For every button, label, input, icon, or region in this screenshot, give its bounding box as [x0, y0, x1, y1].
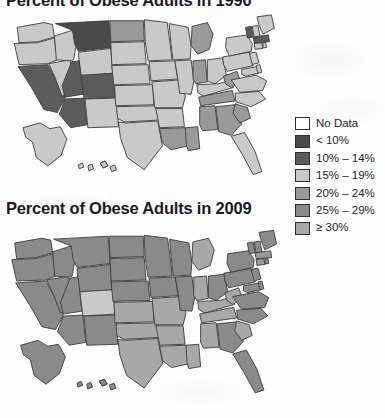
state-nh	[254, 241, 262, 253]
state-mi	[191, 23, 213, 55]
map-legend: No Data< 10%10% – 14%15% – 19%20% – 24%2…	[295, 115, 383, 237]
legend-row: 10% – 14%	[295, 150, 383, 167]
island-1	[88, 164, 94, 171]
state-nh	[252, 25, 260, 36]
island-1	[87, 382, 93, 389]
state-ia	[149, 61, 178, 81]
state-in	[193, 60, 207, 84]
state-ak	[21, 340, 66, 384]
state-wi	[169, 24, 191, 60]
state-ok	[117, 106, 159, 122]
choropleth-map-1990	[4, 14, 296, 186]
state-in	[194, 276, 209, 300]
island-3	[109, 383, 116, 390]
state-sd	[110, 258, 146, 281]
state-nc	[237, 308, 268, 324]
legend-swatch	[295, 204, 310, 217]
island-2	[100, 161, 108, 168]
state-mn	[144, 235, 172, 277]
island-0	[78, 163, 84, 169]
legend-label: ≥ 30%	[316, 222, 349, 234]
state-fl	[231, 132, 262, 174]
state-la	[160, 345, 189, 367]
state-nm	[85, 98, 118, 128]
state-wy	[78, 48, 112, 76]
state-ct	[254, 43, 263, 50]
state-ri	[263, 42, 267, 48]
state-ia	[149, 277, 178, 297]
state-nd	[109, 236, 144, 257]
state-ak	[23, 123, 67, 166]
state-me	[257, 15, 274, 34]
state-sd	[111, 42, 146, 65]
state-nc	[235, 91, 266, 106]
state-fl	[233, 350, 264, 393]
legend-swatch	[295, 117, 310, 130]
state-nd	[110, 21, 144, 42]
legend-label: 10% – 14%	[316, 153, 375, 165]
island-0	[77, 381, 83, 387]
state-vt	[246, 26, 254, 37]
state-ne	[112, 65, 150, 85]
state-co	[81, 73, 115, 99]
state-tx	[118, 338, 163, 388]
map-1990-svg	[4, 14, 296, 186]
choropleth-map-2009	[4, 221, 296, 413]
legend-row: 15% – 19%	[295, 167, 383, 184]
map-2009-svg	[4, 221, 296, 413]
legend-label: < 10%	[316, 135, 349, 147]
legend-row: ≥ 30%	[295, 219, 383, 236]
state-me	[259, 230, 277, 249]
legend-swatch	[295, 169, 310, 182]
state-ar	[156, 109, 185, 128]
legend-swatch	[295, 222, 310, 235]
legend-row: 20% – 24%	[295, 185, 383, 202]
state-ms	[185, 127, 199, 151]
state-al	[201, 323, 219, 348]
state-ri	[265, 258, 269, 264]
legend-swatch	[295, 187, 310, 200]
island-3	[110, 165, 117, 172]
legend-label: 25% – 29%	[316, 205, 375, 217]
legend-label: 20% – 24%	[316, 188, 375, 200]
state-wy	[77, 264, 112, 292]
legend-label: No Data	[316, 118, 358, 130]
legend-swatch	[295, 152, 310, 165]
state-ks	[114, 301, 154, 322]
legend-row: 25% – 29%	[295, 202, 383, 219]
state-az	[58, 315, 86, 345]
state-ms	[186, 344, 201, 368]
legend-swatch	[295, 135, 310, 148]
state-az	[59, 98, 87, 128]
state-la	[160, 128, 189, 150]
state-ar	[156, 326, 185, 345]
map-title-2009: Percent of Obese Adults in 2009	[6, 199, 251, 218]
state-ks	[115, 85, 154, 106]
state-nm	[84, 315, 118, 345]
legend-label: 15% – 19%	[316, 170, 375, 182]
state-mi	[192, 238, 214, 270]
figure-page: Percent of Obese Adults in 1990 Percent …	[0, 0, 385, 418]
state-ct	[256, 259, 265, 266]
legend-row: < 10%	[295, 132, 383, 149]
state-co	[80, 290, 115, 316]
map-title-1990: Percent of Obese Adults in 1990	[6, 0, 251, 10]
state-al	[200, 106, 218, 131]
state-ok	[116, 323, 159, 340]
state-mn	[144, 20, 172, 61]
state-wi	[169, 239, 191, 276]
state-ne	[111, 281, 150, 301]
legend-row: No Data	[295, 115, 383, 132]
state-tx	[118, 121, 162, 170]
island-2	[99, 379, 107, 386]
